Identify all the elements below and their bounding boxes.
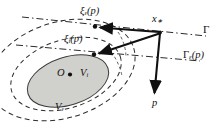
gamma-epsilon-line (16, 45, 200, 61)
label-x-star-sub: ∗ (157, 17, 162, 24)
arrow-to-xi-inner (99, 34, 160, 54)
label-v-i: Vi (80, 68, 88, 79)
label-xi-epsilon-p: ξε(p) (80, 6, 99, 17)
point-x-star (158, 31, 162, 35)
label-xi-epsilon-arg: (p) (87, 5, 99, 16)
point-xi-outer (93, 24, 97, 28)
label-gamma-base: Γ (203, 23, 209, 35)
label-origin-base: O (57, 67, 65, 78)
label-gamma-epsilon-p: Γε(p) (183, 50, 204, 61)
label-gamma: Γ (203, 24, 209, 35)
label-xi-i-arg: (p) (70, 33, 82, 44)
figure-container: ξε(p) ξi(p) x∗ Γ Γε(p) O Vi Vε p (0, 0, 218, 131)
point-xi-inner (92, 52, 96, 56)
label-v-epsilon: Vε (55, 102, 64, 113)
inner-ellipse-v-i (21, 45, 116, 117)
point-origin (68, 72, 72, 76)
label-v-i-sub: i (86, 71, 88, 78)
label-p-vector: p (152, 98, 157, 109)
label-origin-o: O (57, 68, 65, 79)
label-x-star: x∗ (152, 14, 162, 25)
gamma-line (22, 17, 206, 36)
label-xi-i-p: ξi(p) (64, 34, 83, 45)
label-v-epsilon-sub: ε (61, 105, 64, 112)
label-p-base: p (152, 97, 157, 108)
diagram-canvas (0, 0, 218, 131)
label-gamma-epsilon-arg: (p) (192, 49, 204, 60)
arrow-p-vector (155, 33, 161, 93)
angle-arc-lower (108, 48, 122, 76)
